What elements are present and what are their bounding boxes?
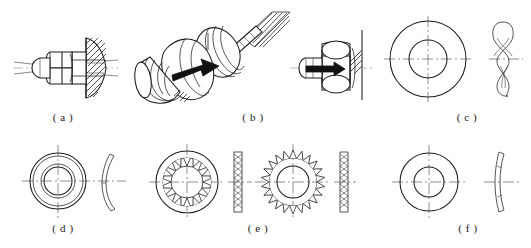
panel-b-isometric-bolt	[133, 12, 290, 103]
panel-d-edge-cap	[110, 154, 114, 156]
panel-a-washer-section	[72, 52, 86, 84]
panel-d-outer-circle	[30, 153, 86, 209]
panel-d-edge-outer	[102, 154, 111, 211]
panel-b-detail-nut-section	[290, 30, 372, 100]
panel-c-wave-spring-washer	[384, 16, 523, 102]
caption-panel-e: ( e )	[248, 222, 269, 234]
panel-d-edge-inner	[106, 156, 115, 209]
panel-f-edge-view	[484, 152, 520, 212]
panel-a-bolt-head-outline	[32, 58, 50, 78]
panel-e2-edge-serration	[340, 154, 348, 208]
caption-panel-f: ( f )	[458, 222, 478, 234]
panel-e-internal-tooth-washer	[149, 144, 225, 220]
panel-a-bolted-joint-section	[14, 38, 118, 98]
panel-c-edge-view	[489, 22, 523, 96]
panel-f-edge-cap-bottom	[499, 210, 504, 212]
caption-panel-a: ( a )	[53, 111, 74, 123]
caption-panel-c: ( c )	[457, 111, 478, 123]
panel-d-edge-cap	[111, 209, 115, 211]
panel-a-washer-body	[72, 52, 86, 84]
panel-d-split-lock-washer	[22, 145, 126, 218]
caption-panel-b: ( b )	[242, 111, 263, 123]
technical-drawing-canvas	[0, 0, 531, 248]
caption-panel-d: ( d )	[52, 222, 73, 234]
figure-root: ( a ) ( b ) ( c ) ( d ) ( e ) ( f )	[0, 0, 531, 248]
panel-a-bolt-head	[32, 58, 50, 78]
panel-e-external-tooth-washer	[255, 144, 331, 220]
panel-b2-nut-bottom-ellipse	[322, 75, 350, 93]
panel-e1-edge-serration	[234, 154, 242, 208]
panel-b2-nut-top-ellipse	[322, 41, 350, 59]
panel-f-edge-cap-top	[499, 152, 504, 154]
panel-e-tooth-lock-washers	[149, 144, 356, 220]
panel-f-conical-disc-washer	[392, 145, 520, 219]
panel-a-conical-plate	[86, 38, 106, 98]
panel-e1-edge-view	[228, 152, 252, 212]
panel-e2-edge-view	[334, 152, 356, 212]
panel-d-edge-view	[98, 154, 126, 211]
